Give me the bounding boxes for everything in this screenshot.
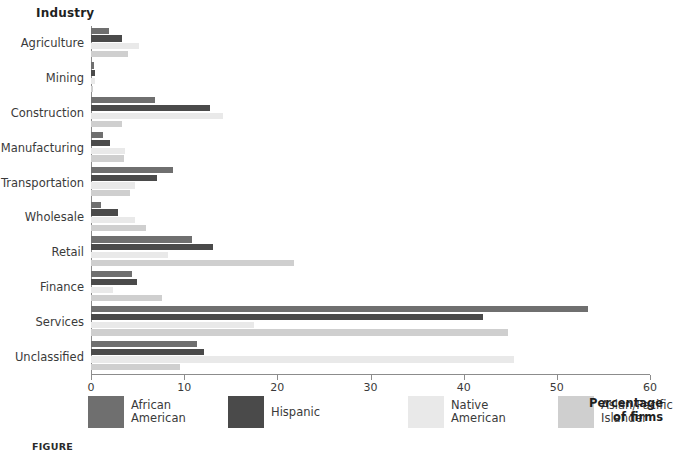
bar [91, 341, 197, 347]
legend-label: Hispanic [271, 406, 320, 419]
category-label: Unclassified [0, 350, 84, 364]
bar [91, 244, 213, 250]
bar [91, 113, 223, 119]
x-tick-mark [650, 375, 651, 380]
x-tick-label: 60 [643, 381, 657, 394]
category-label: Transportation [0, 176, 84, 190]
y-axis-title: Industry [36, 6, 94, 20]
legend-entry: Hispanic [228, 396, 320, 428]
bar [91, 295, 162, 301]
category-label: Mining [0, 71, 84, 85]
bar [91, 97, 155, 103]
bar [91, 314, 483, 320]
bar [91, 271, 132, 277]
x-tick-label: 30 [364, 381, 378, 394]
bar [91, 252, 168, 258]
legend-swatch [228, 396, 264, 428]
category-label: Construction [0, 106, 84, 120]
x-tick-mark [557, 375, 558, 380]
x-tick-label: 10 [177, 381, 191, 394]
x-tick-label: 0 [88, 381, 95, 394]
bar [91, 225, 146, 231]
x-axis-title: Percentage of firms [567, 396, 663, 424]
bar [91, 209, 118, 215]
bar [91, 364, 180, 370]
bar [91, 349, 204, 355]
bar [91, 43, 139, 49]
bar [91, 70, 95, 76]
legend-label: Native American [451, 399, 506, 425]
bar [91, 62, 94, 68]
legend-swatch [88, 396, 124, 428]
bar [91, 105, 210, 111]
bar [91, 78, 95, 84]
category-label: Retail [0, 245, 84, 259]
bar [91, 35, 122, 41]
bar [91, 322, 254, 328]
category-label: Manufacturing [0, 141, 84, 155]
category-label: Services [0, 315, 84, 329]
bar [91, 306, 588, 312]
bar [91, 217, 135, 223]
bar [91, 28, 109, 34]
legend-entry: Native American [408, 396, 506, 428]
bar [91, 356, 514, 362]
legend-swatch [408, 396, 444, 428]
x-tick-label: 20 [270, 381, 284, 394]
x-tick-mark [184, 375, 185, 380]
x-tick-mark [464, 375, 465, 380]
x-tick-mark [371, 375, 372, 380]
x-tick-label: 50 [550, 381, 564, 394]
bar [91, 175, 157, 181]
bar [91, 287, 113, 293]
bar [91, 51, 128, 57]
legend-entry: African American [88, 396, 186, 428]
bar [91, 279, 137, 285]
bar [91, 148, 125, 154]
bar [91, 121, 122, 127]
x-tick-mark [277, 375, 278, 380]
x-tick-label: 40 [457, 381, 471, 394]
bar [91, 236, 192, 242]
category-label: Wholesale [0, 210, 84, 224]
figure-caption: FIGURE [32, 441, 73, 452]
legend-label: African American [131, 399, 186, 425]
bar [91, 202, 101, 208]
category-label: Agriculture [0, 36, 84, 50]
x-tick-mark [91, 375, 92, 380]
bar [91, 329, 508, 335]
bar [91, 190, 130, 196]
bar [91, 182, 135, 188]
category-label: Finance [0, 280, 84, 294]
bar [91, 155, 124, 161]
bar [91, 167, 173, 173]
bar [91, 260, 294, 266]
bar [91, 140, 110, 146]
bar [91, 86, 93, 92]
bar [91, 132, 103, 138]
